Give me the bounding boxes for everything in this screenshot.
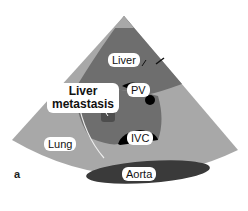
pv-label: PV [127, 83, 150, 97]
ivc-label: IVC [127, 131, 153, 145]
sector-tip [114, 16, 134, 28]
liver-metastasis-label: Liver metastasis [47, 83, 119, 113]
figure-letter: a [14, 168, 20, 180]
aorta-label: Aorta [122, 167, 156, 181]
liver-label: Liver [108, 53, 140, 67]
label-line: metastasis [52, 98, 114, 111]
lung-label: Lung [44, 137, 76, 151]
pv-branch [145, 95, 155, 105]
